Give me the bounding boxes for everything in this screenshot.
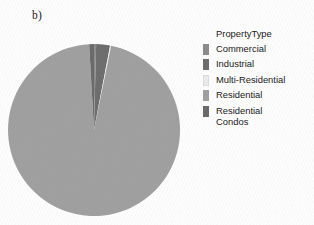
legend-item-label: Residential Condos xyxy=(216,105,262,128)
legend-item: Industrial xyxy=(203,58,311,71)
legend-item-label: Industrial xyxy=(216,58,254,70)
legend-swatch xyxy=(203,90,209,101)
legend-swatch xyxy=(203,44,209,55)
legend-items: CommercialIndustrialMulti-ResidentialRes… xyxy=(203,43,311,128)
pie-chart-svg xyxy=(8,44,180,216)
pie-chart xyxy=(8,44,180,216)
legend-item-label: Multi-Residential xyxy=(216,74,285,86)
legend-item: Residential Condos xyxy=(203,105,311,128)
pie-slice-group xyxy=(8,44,180,216)
legend-swatch xyxy=(203,75,209,86)
legend: PropertyType CommercialIndustrialMulti-R… xyxy=(203,28,311,130)
pie-chart-figure: b) PropertyType CommercialIndustrialMult… xyxy=(0,0,314,225)
legend-item: Residential xyxy=(203,89,311,102)
legend-swatch xyxy=(203,59,209,70)
legend-item: Commercial xyxy=(203,43,311,56)
legend-swatch xyxy=(203,106,209,117)
legend-title: PropertyType xyxy=(216,28,311,39)
panel-label: b) xyxy=(32,9,42,21)
legend-item-label: Residential xyxy=(216,89,262,101)
legend-item: Multi-Residential xyxy=(203,74,311,87)
legend-item-label: Commercial xyxy=(216,43,266,55)
